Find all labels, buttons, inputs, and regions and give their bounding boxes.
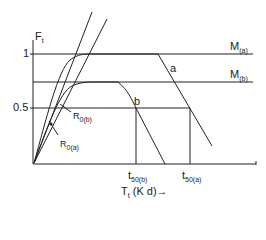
label-t50b: t50(b)	[128, 170, 147, 183]
curve-b-label: b	[134, 96, 140, 107]
curve-a-label: a	[170, 63, 176, 74]
label-m-b: M(b)	[230, 69, 248, 82]
y-tick-0-5: 0.5	[13, 102, 28, 113]
right-arrow-icon: →	[157, 185, 168, 197]
label-m-a: M(a)	[230, 41, 248, 54]
r0a-marker	[50, 123, 53, 126]
label-r0a: R0(a)	[60, 140, 79, 151]
label-t50a: t50(a)	[182, 170, 201, 183]
y-axis-label: Ft	[35, 31, 44, 44]
y-tick-1: 1	[23, 48, 29, 59]
label-r0b: R0(b)	[73, 112, 92, 123]
x-axis-label: Tt (K d)→	[121, 186, 168, 199]
